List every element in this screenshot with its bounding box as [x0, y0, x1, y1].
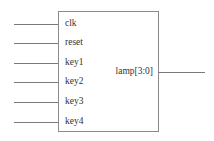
output-port-label: lamp[3:0] [116, 66, 153, 76]
input-port-label: reset [65, 37, 83, 47]
output-wire [158, 72, 205, 73]
input-wire-key2 [14, 82, 58, 83]
input-wire-reset [14, 43, 58, 44]
input-wire-key3 [14, 102, 58, 103]
input-port-label: clk [65, 18, 77, 28]
input-wire-clk [14, 24, 58, 25]
input-port-label: key3 [65, 96, 83, 106]
input-wire-key1 [14, 63, 58, 64]
input-port-label: key4 [65, 116, 83, 126]
input-port-label: key1 [65, 57, 83, 67]
input-port-label: key2 [65, 76, 83, 86]
input-wire-key4 [14, 122, 58, 123]
